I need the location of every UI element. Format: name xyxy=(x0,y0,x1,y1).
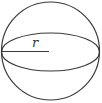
sphere-diagram: r xyxy=(0,0,102,103)
radius-label: r xyxy=(32,35,39,50)
